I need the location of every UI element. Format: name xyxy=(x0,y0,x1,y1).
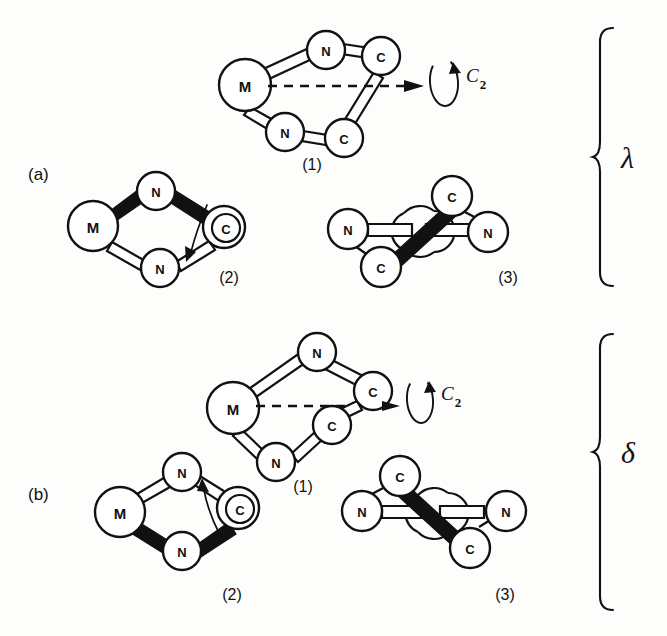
conformer-label-lambda: λ xyxy=(620,141,634,174)
atom-label-nitrogen-bottom: N xyxy=(280,126,289,141)
structure-number-a2: (2) xyxy=(219,269,239,286)
figure-background xyxy=(0,0,667,636)
atom-label-carbon-top: C xyxy=(395,470,405,485)
panel-b-label: (b) xyxy=(28,485,49,504)
atom-label-nitrogen-left: N xyxy=(357,505,366,520)
atom-label-nitrogen-left: N xyxy=(343,223,352,238)
bond-open-metal-n-right xyxy=(440,506,484,518)
atom-label-carbon-bottom: C xyxy=(376,261,386,276)
atom-label-carbon: C xyxy=(235,503,245,518)
structure-number-a3: (3) xyxy=(498,269,518,286)
atom-label-metal: M xyxy=(87,219,100,236)
structure-number-b3: (3) xyxy=(495,586,515,603)
atom-label-nitrogen-right: N xyxy=(501,505,510,520)
atom-label-carbon-right: C xyxy=(368,385,378,400)
atom-label-carbon-center: C xyxy=(327,419,337,434)
atom-label-nitrogen-top: N xyxy=(151,185,160,200)
bond-open-n-left-metal xyxy=(368,224,412,236)
atom-label-metal: M xyxy=(227,401,240,418)
atom-label-carbon-bottom: C xyxy=(339,132,349,147)
atom-label-carbon: C xyxy=(221,222,231,237)
atom-label-metal: M xyxy=(114,505,127,522)
atom-label-nitrogen-top: N xyxy=(321,44,330,59)
atom-label-nitrogen-top: N xyxy=(177,466,186,481)
conformer-label-delta: δ xyxy=(621,436,636,469)
atom-label-carbon-top: C xyxy=(447,190,457,205)
atom-label-nitrogen-bottom: N xyxy=(155,262,164,277)
atom-label-nitrogen-top: N xyxy=(312,346,321,361)
atom-label-nitrogen-bottom: N xyxy=(177,545,186,560)
structure-number-a1: (1) xyxy=(302,156,322,173)
atom-label-carbon-top: C xyxy=(376,50,386,65)
atom-label-metal: M xyxy=(239,78,252,95)
atom-label-nitrogen-right: N xyxy=(483,226,492,241)
atom-label-nitrogen-bottom: N xyxy=(271,456,280,471)
structure-number-b1: (1) xyxy=(293,478,313,495)
structure-number-b2: (2) xyxy=(222,586,242,603)
chelate-conformation-figure: (a) M N C xyxy=(0,0,667,636)
panel-a-label: (a) xyxy=(28,165,49,184)
atom-label-carbon-bottom: C xyxy=(465,542,475,557)
